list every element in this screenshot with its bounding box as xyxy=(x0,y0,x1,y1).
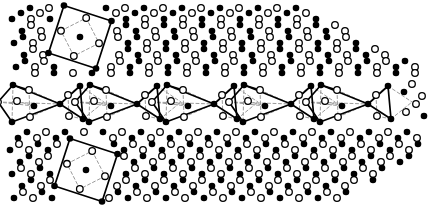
lattice-atom xyxy=(41,58,48,65)
lattice-atom xyxy=(406,153,413,160)
lattice-atom xyxy=(174,58,181,65)
lattice-atom xyxy=(296,195,303,202)
lattice-atom xyxy=(404,129,411,136)
lattice-atom xyxy=(273,153,280,160)
lattice-atom xyxy=(320,141,327,148)
lattice-atom xyxy=(292,147,299,154)
lattice-atom xyxy=(414,135,421,142)
chain-quad-atom xyxy=(10,82,17,89)
chain-tri-open-atom xyxy=(373,92,380,99)
chain-hub-atom xyxy=(57,101,64,108)
lattice-atom xyxy=(286,34,293,41)
chain-dashed-bond xyxy=(260,90,261,117)
lattice-atom xyxy=(415,141,422,148)
chain-hub-atom xyxy=(134,101,141,108)
chain-quad-open-atom xyxy=(104,114,111,121)
lattice-atom xyxy=(256,177,263,184)
lattice-atom xyxy=(144,195,151,202)
chain-tri-open-atom xyxy=(220,113,227,120)
lattice-atom xyxy=(379,165,386,172)
lattice-atom xyxy=(372,46,379,53)
lattice-atom xyxy=(237,177,244,184)
lattice-atom xyxy=(222,70,229,77)
lattice-atom xyxy=(141,5,148,12)
lattice-atom xyxy=(246,10,253,17)
cluster-edge-atom xyxy=(58,28,65,35)
lattice-atom xyxy=(294,22,301,29)
chain-dashed-bond xyxy=(183,90,184,117)
lattice-atom xyxy=(317,64,324,71)
lattice-atom xyxy=(132,10,139,17)
chain-tri-open-atom xyxy=(296,92,303,99)
lattice-atom xyxy=(178,153,185,160)
lattice-atom xyxy=(368,153,375,160)
lattice-atom xyxy=(296,46,303,53)
cluster-edge-atom xyxy=(64,161,71,168)
chain-tri-open-atom xyxy=(66,113,73,120)
lattice-atom xyxy=(9,16,16,23)
lattice-atom xyxy=(332,22,339,29)
chain-quad-atom xyxy=(339,103,346,110)
lattice-atom xyxy=(286,189,293,196)
lattice-atom xyxy=(294,171,301,178)
lattice-atom xyxy=(168,141,175,148)
lattice-atom xyxy=(140,153,147,160)
lattice-atom xyxy=(313,177,320,184)
lattice-atom xyxy=(212,58,219,65)
chain-quad-open-atom xyxy=(27,114,34,121)
lattice-atom xyxy=(315,195,322,202)
lattice-atom xyxy=(149,141,156,148)
chain-quad-open-atom xyxy=(226,99,233,106)
chain-quad-atom xyxy=(240,119,247,126)
lattice-atom xyxy=(351,177,358,184)
chain-dashed-bond xyxy=(106,90,107,117)
lattice-atom xyxy=(20,189,27,196)
lattice-atom xyxy=(315,40,322,47)
lattice-atom xyxy=(332,177,339,184)
lattice-atom xyxy=(163,195,170,202)
lattice-atom xyxy=(406,147,413,154)
lattice-atom xyxy=(153,34,160,41)
lattice-atom xyxy=(214,129,221,136)
lattice-atom xyxy=(153,189,160,196)
lattice-atom xyxy=(32,70,39,77)
lattice-atom xyxy=(130,141,137,148)
lattice-atom xyxy=(180,22,187,29)
lattice-atom xyxy=(249,52,256,59)
lattice-atom xyxy=(125,46,132,53)
chain-dashed-bond xyxy=(388,86,412,102)
lattice-atom xyxy=(262,135,269,142)
lattice-atom xyxy=(282,141,289,148)
lattice-atom xyxy=(37,10,44,17)
square-cluster-inner-edge xyxy=(74,43,99,56)
lattice-atom xyxy=(397,159,404,166)
lattice-atom xyxy=(324,34,331,41)
lattice-atom xyxy=(241,64,248,71)
chain-bond xyxy=(388,86,391,119)
lattice-atom xyxy=(419,93,426,100)
lattice-atom xyxy=(189,165,196,172)
chain-quad-atom xyxy=(87,82,94,89)
chain-quad-open-atom xyxy=(72,99,79,106)
lattice-atom xyxy=(330,147,337,154)
cluster-edge-atom xyxy=(102,173,109,180)
lattice-atom xyxy=(36,159,43,166)
cluster-corner-atom xyxy=(114,151,121,158)
lattice-atom xyxy=(157,129,164,136)
lattice-atom xyxy=(191,34,198,41)
chain-quad-atom xyxy=(318,82,325,89)
lattice-atom xyxy=(370,171,377,178)
lattice-atom xyxy=(144,46,151,53)
lattice-atom xyxy=(39,34,46,41)
lattice-atom xyxy=(103,5,110,12)
lattice-atom xyxy=(254,153,261,160)
lattice-atom xyxy=(263,141,270,148)
lattice-atom xyxy=(49,195,56,202)
lattice-atom xyxy=(100,129,107,136)
lattice-atom xyxy=(142,22,149,29)
lattice-atom xyxy=(218,171,225,178)
lattice-atom xyxy=(11,195,18,202)
chain-quad-atom xyxy=(31,103,38,110)
lattice-atom xyxy=(322,165,329,172)
lattice-atom xyxy=(264,159,271,166)
